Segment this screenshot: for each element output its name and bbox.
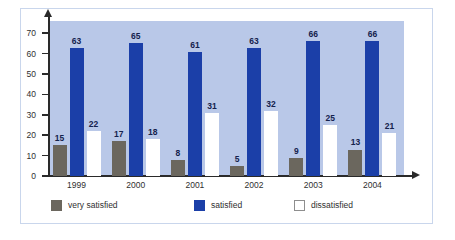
x-axis-label-1999: 1999 <box>43 181 111 190</box>
bar-1999-satisfied <box>70 48 84 176</box>
chart-legend: very satisfiedsatisfieddissatisfied <box>51 197 401 213</box>
bar-2000-dissatisfied <box>146 139 160 176</box>
y-axis-tick-label: 20 <box>12 131 36 140</box>
bar-value-label: 5 <box>225 155 249 164</box>
bar-1999-dissatisfied <box>87 131 101 176</box>
x-axis-arrow-icon <box>412 171 420 179</box>
legend-swatch-icon <box>294 200 305 211</box>
bar-value-label: 9 <box>284 147 308 156</box>
y-axis-tick-label: 70 <box>12 29 36 38</box>
y-axis-tick <box>42 94 48 96</box>
bar-2002-very-satisfied <box>230 166 244 176</box>
x-axis-label-2000: 2000 <box>102 181 170 190</box>
bar-2001-satisfied <box>188 52 202 176</box>
bar-2004-dissatisfied <box>382 133 396 176</box>
x-axis-label-2004: 2004 <box>338 181 406 190</box>
chart-title <box>20 0 433 3</box>
x-axis-label-2002: 2002 <box>220 181 288 190</box>
y-axis-tick <box>42 175 48 177</box>
legend-item-very-satisfied[interactable]: very satisfied <box>51 197 118 213</box>
bar-value-label: 31 <box>200 102 224 111</box>
legend-label: satisfied <box>211 201 242 210</box>
bar-2004-very-satisfied <box>348 150 362 177</box>
legend-item-dissatisfied[interactable]: dissatisfied <box>294 197 353 213</box>
bar-1999-very-satisfied <box>53 145 67 176</box>
y-axis-tick-label: 60 <box>12 50 36 59</box>
legend-swatch-icon <box>51 200 62 211</box>
y-axis-tick <box>42 114 48 116</box>
bar-2001-very-satisfied <box>171 160 185 176</box>
bar-value-label: 61 <box>183 41 207 50</box>
y-axis-tick-label: 30 <box>12 111 36 120</box>
bar-2000-satisfied <box>129 43 143 176</box>
bar-value-label: 15 <box>48 134 72 143</box>
y-axis-tick-label: 50 <box>12 70 36 79</box>
y-axis-tick <box>42 73 48 75</box>
y-axis-line <box>48 15 50 176</box>
bar-value-label: 25 <box>318 114 342 123</box>
bar-2003-dissatisfied <box>323 125 337 176</box>
bar-value-label: 21 <box>377 122 401 131</box>
y-axis-tick-label: 10 <box>12 152 36 161</box>
bar-value-label: 8 <box>166 149 190 158</box>
bar-2000-very-satisfied <box>112 141 126 176</box>
legend-label: very satisfied <box>68 201 118 210</box>
bar-value-label: 63 <box>65 37 89 46</box>
bar-value-label: 32 <box>259 100 283 109</box>
y-axis-tick <box>42 53 48 55</box>
y-axis-tick <box>42 32 48 34</box>
bar-value-label: 13 <box>343 138 367 147</box>
x-axis-label-2003: 2003 <box>279 181 347 190</box>
bar-value-label: 17 <box>107 130 131 139</box>
bar-2003-very-satisfied <box>289 158 303 176</box>
y-axis-tick-label: 0 <box>12 172 36 181</box>
bar-value-label: 63 <box>242 37 266 46</box>
legend-label: dissatisfied <box>311 201 353 210</box>
bar-2003-satisfied <box>306 41 320 176</box>
bar-2001-dissatisfied <box>205 113 219 176</box>
bar-2002-satisfied <box>247 48 261 176</box>
bar-value-label: 65 <box>124 32 148 41</box>
y-axis-tick <box>42 155 48 157</box>
y-axis-arrow-icon <box>44 9 52 17</box>
y-axis-tick-label: 40 <box>12 90 36 99</box>
bar-2004-satisfied <box>365 41 379 176</box>
bar-value-label: 22 <box>82 120 106 129</box>
chart-figure: 010203040506070 156322176518861315633296… <box>20 8 433 224</box>
bar-value-label: 66 <box>301 30 325 39</box>
bar-2002-dissatisfied <box>264 111 278 176</box>
x-axis-label-2001: 2001 <box>161 181 229 190</box>
bar-value-label: 66 <box>360 30 384 39</box>
bar-value-label: 18 <box>141 128 165 137</box>
legend-item-satisfied[interactable]: satisfied <box>194 197 242 213</box>
legend-swatch-icon <box>194 200 205 211</box>
